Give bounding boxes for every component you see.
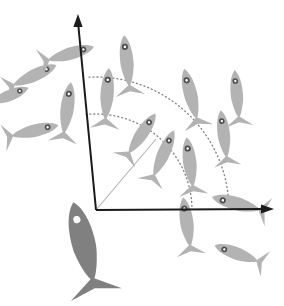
neighbor-fish-body bbox=[117, 34, 136, 86]
neighbor-fish bbox=[172, 135, 208, 197]
focal-fish-group bbox=[48, 196, 122, 301]
neighbor-fish bbox=[0, 112, 61, 151]
neighbor-fish bbox=[169, 195, 206, 257]
neighbor-fish-body bbox=[124, 110, 161, 156]
neighbor-fish-tail-fin bbox=[225, 115, 253, 128]
neighbor-fish-body bbox=[178, 67, 203, 120]
fish-school-diagram bbox=[0, 0, 284, 306]
neighbor-fish-body bbox=[57, 81, 77, 133]
neighbor-fish bbox=[109, 34, 145, 98]
neighbor-fish-body bbox=[212, 240, 259, 267]
neighbor-fish-body bbox=[210, 191, 261, 217]
neighbor-fish-tail-fin bbox=[251, 248, 270, 277]
lateral-axis-line bbox=[96, 209, 264, 210]
neighbor-fish-body bbox=[148, 128, 179, 178]
neighbor-fish-body bbox=[99, 68, 116, 120]
neighbor-fish-body bbox=[0, 82, 31, 108]
focal-fish bbox=[48, 196, 122, 301]
neighbor-fish bbox=[36, 34, 98, 76]
neighbor-fish-body bbox=[215, 109, 233, 157]
neighbor-fish bbox=[207, 109, 241, 168]
neighbor-fish bbox=[48, 80, 86, 144]
neighbor-fish-body bbox=[177, 196, 197, 247]
bearing-line-group bbox=[96, 139, 156, 210]
neighbor-fish-body bbox=[47, 41, 96, 66]
neighbor-fish-body bbox=[229, 70, 245, 118]
neighbor-fish bbox=[90, 67, 124, 130]
neighbor-fish-group bbox=[0, 34, 272, 277]
neighbor-fish-tail-fin bbox=[138, 168, 167, 189]
neighbor-fish-tail-fin bbox=[90, 116, 120, 129]
heading-axis-arrowhead bbox=[73, 14, 82, 27]
focal-fish-body bbox=[62, 199, 104, 282]
neighbor-fish bbox=[208, 183, 272, 227]
neighbor-fish bbox=[170, 65, 213, 131]
neighbor-fish-body bbox=[11, 59, 59, 90]
figure-canvas bbox=[0, 0, 284, 306]
neighbor-fish-body bbox=[180, 136, 199, 186]
neighbor-bearing-line bbox=[96, 139, 156, 210]
neighbor-fish bbox=[210, 233, 270, 277]
